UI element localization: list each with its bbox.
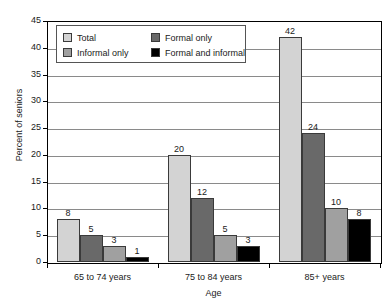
y-axis-tick-label: 10 bbox=[19, 202, 41, 212]
bar-group-bars: 4224108 bbox=[279, 21, 371, 262]
x-axis-tick-mark bbox=[380, 263, 381, 268]
bar-value-label: 5 bbox=[222, 224, 227, 234]
bar-value-label: 3 bbox=[245, 235, 250, 245]
legend-swatch-icon bbox=[63, 33, 72, 42]
y-axis-tick-label: 20 bbox=[19, 149, 41, 159]
bar[interactable] bbox=[168, 155, 191, 262]
bar[interactable] bbox=[348, 219, 371, 262]
y-axis-tick-label: 45 bbox=[19, 15, 41, 25]
y-axis-tick-label: 0 bbox=[19, 256, 41, 266]
y-axis-tick-label: 15 bbox=[19, 176, 41, 186]
x-axis-category-label: 65 to 74 years bbox=[47, 272, 158, 282]
bar[interactable] bbox=[237, 246, 260, 262]
bar[interactable] bbox=[80, 235, 103, 262]
bar-value-label: 1 bbox=[134, 246, 139, 256]
y-axis-tick-label: 35 bbox=[19, 69, 41, 79]
legend-item[interactable]: Informal only bbox=[63, 48, 151, 58]
bar-slot: 24 bbox=[302, 21, 325, 262]
legend-label: Informal only bbox=[77, 48, 129, 58]
x-axis-category-label: 85+ years bbox=[269, 272, 380, 282]
y-axis-tick-label: 5 bbox=[19, 229, 41, 239]
x-axis-tick-mark bbox=[158, 263, 159, 268]
x-axis-category-label: 75 to 84 years bbox=[158, 272, 269, 282]
x-axis-tick-mark bbox=[269, 263, 270, 268]
bar[interactable] bbox=[302, 133, 325, 262]
x-axis-title: Age bbox=[47, 288, 380, 298]
bar-value-label: 5 bbox=[88, 224, 93, 234]
legend-swatch-icon bbox=[151, 48, 160, 57]
legend-label: Total bbox=[77, 33, 96, 43]
y-axis-tick-label: 30 bbox=[19, 95, 41, 105]
bar-value-label: 20 bbox=[174, 144, 184, 154]
bar[interactable] bbox=[103, 246, 126, 262]
bar-group: 4224108 bbox=[269, 21, 380, 262]
legend-item[interactable]: Total bbox=[63, 33, 151, 43]
bar[interactable] bbox=[126, 257, 149, 262]
bar-slot: 8 bbox=[348, 21, 371, 262]
bar-value-label: 3 bbox=[111, 235, 116, 245]
bar[interactable] bbox=[57, 219, 80, 262]
bar-slot: 10 bbox=[325, 21, 348, 262]
legend-item[interactable]: Formal and informal bbox=[151, 48, 245, 58]
bar-value-label: 24 bbox=[308, 122, 318, 132]
bar-value-label: 8 bbox=[356, 208, 361, 218]
y-axis-tick-label: 25 bbox=[19, 122, 41, 132]
bar-value-label: 10 bbox=[331, 197, 341, 207]
bar-slot: 42 bbox=[279, 21, 302, 262]
bar[interactable] bbox=[325, 208, 348, 262]
legend-swatch-icon bbox=[63, 48, 72, 57]
bar-value-label: 8 bbox=[65, 208, 70, 218]
bar-chart: Percent of seniors 051015202530354045 85… bbox=[0, 0, 392, 308]
y-axis-tick-label: 40 bbox=[19, 42, 41, 52]
bar-value-label: 12 bbox=[197, 187, 207, 197]
bar[interactable] bbox=[191, 198, 214, 262]
legend-item[interactable]: Formal only bbox=[151, 33, 245, 43]
legend-swatch-icon bbox=[151, 33, 160, 42]
legend-label: Formal and informal bbox=[165, 48, 245, 58]
bar[interactable] bbox=[214, 235, 237, 262]
x-axis-tick-mark bbox=[47, 263, 48, 268]
legend-label: Formal only bbox=[165, 33, 212, 43]
legend: TotalFormal onlyInformal onlyFormal and … bbox=[56, 25, 246, 63]
bar-value-label: 42 bbox=[285, 26, 295, 36]
bar[interactable] bbox=[279, 37, 302, 262]
